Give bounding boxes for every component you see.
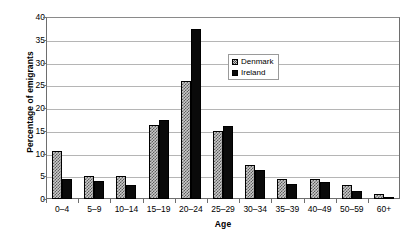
x-axis-tick-label: 0–4	[46, 204, 78, 214]
x-axis-tick-label: 20–24	[175, 204, 207, 214]
y-axis-tick-label: 30	[23, 59, 45, 68]
x-axis-title: Age	[46, 219, 400, 229]
x-axis-tick-cell	[143, 199, 175, 203]
bar-denmark	[181, 81, 191, 199]
x-axis-tick-cell	[207, 199, 239, 203]
bar-denmark	[84, 176, 94, 199]
x-axis-tick-mark	[143, 199, 144, 203]
y-axis-tick-label: 35	[23, 36, 45, 45]
x-axis-tick-cell	[271, 199, 303, 203]
bar-group	[175, 17, 207, 199]
x-axis-tick-mark	[239, 199, 240, 203]
legend-item-denmark: Denmark	[232, 57, 273, 66]
x-axis-tick-label: 15–19	[143, 204, 175, 214]
bar-group	[78, 17, 110, 199]
bar-group	[336, 17, 368, 199]
x-axis-tick-cell	[175, 199, 207, 203]
y-axis-tick-label: 25	[23, 81, 45, 90]
bar-group	[207, 17, 239, 199]
bar-chart: Percentage of emigrants 4035302520151050…	[0, 0, 417, 237]
y-axis-tick-label: 0	[23, 195, 45, 204]
y-axis-tick-label: 40	[23, 13, 45, 22]
x-axis-tick-label: 25–29	[207, 204, 239, 214]
legend-item-ireland: Ireland	[232, 68, 273, 77]
legend-swatch-icon	[232, 59, 238, 65]
x-axis-tick-marks	[46, 199, 400, 203]
x-axis-tick-mark	[304, 199, 305, 203]
bar-group	[239, 17, 271, 199]
bar-denmark	[149, 125, 159, 199]
bar-ireland	[126, 185, 136, 199]
x-axis-tick-mark	[271, 199, 272, 203]
x-axis-tick-labels: 0–45–910–1415–1920–2425–2930–3435–3940–4…	[46, 204, 400, 214]
legend-label: Ireland	[241, 68, 265, 77]
bar-group	[110, 17, 142, 199]
x-axis-tick-label: 30–34	[239, 204, 271, 214]
x-axis-tick-label: 10–14	[110, 204, 142, 214]
bar-group	[368, 17, 400, 199]
bar-denmark	[52, 151, 62, 199]
x-axis-tick-cell	[46, 199, 78, 203]
x-axis-tick-mark	[207, 199, 208, 203]
bar-ireland	[94, 181, 104, 199]
bar-ireland	[62, 179, 72, 199]
bar-denmark	[213, 131, 223, 199]
y-axis-tick-label: 10	[23, 150, 45, 159]
x-axis-tick-label: 35–39	[271, 204, 303, 214]
legend-label: Denmark	[241, 57, 273, 66]
bar-group	[46, 17, 78, 199]
bar-ireland	[223, 126, 233, 199]
chart-legend: DenmarkIreland	[228, 54, 279, 80]
bar-denmark	[245, 165, 255, 199]
y-axis-tick-label: 20	[23, 104, 45, 113]
x-axis-tick-cell	[78, 199, 110, 203]
x-axis-tick-label: 5–9	[78, 204, 110, 214]
x-axis-tick-cell	[110, 199, 142, 203]
bar-ireland	[255, 170, 265, 199]
bar-denmark	[277, 179, 287, 199]
bar-ireland	[320, 182, 330, 199]
x-axis-tick-label: 50–59	[336, 204, 368, 214]
x-axis-tick-cell	[304, 199, 336, 203]
x-axis-tick-mark	[46, 199, 47, 203]
bar-ireland	[352, 191, 362, 199]
bar-ireland	[191, 29, 201, 199]
bar-denmark	[116, 176, 126, 199]
x-axis-tick-mark	[368, 199, 369, 203]
y-axis-tick-label: 15	[23, 127, 45, 136]
x-axis-tick-cell	[239, 199, 271, 203]
x-axis-tick-label: 60+	[368, 204, 400, 214]
legend-swatch-icon	[232, 70, 238, 76]
bar-ireland	[287, 184, 297, 199]
bar-group	[304, 17, 336, 199]
x-axis-tick-label: 40–49	[304, 204, 336, 214]
bars-layer	[46, 17, 400, 199]
bar-denmark	[310, 179, 320, 199]
bar-ireland	[159, 120, 169, 199]
x-axis-tick-cell	[368, 199, 400, 203]
x-axis-tick-cell	[336, 199, 368, 203]
x-axis-tick-mark	[110, 199, 111, 203]
bar-group	[143, 17, 175, 199]
x-axis-tick-mark	[175, 199, 176, 203]
bar-group	[271, 17, 303, 199]
bar-denmark	[342, 185, 352, 199]
x-axis-tick-mark	[78, 199, 79, 203]
y-axis-tick-label: 5	[23, 172, 45, 181]
x-axis-tick-mark	[336, 199, 337, 203]
